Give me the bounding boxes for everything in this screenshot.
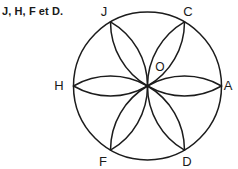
vertex-label-a: A bbox=[224, 78, 233, 93]
vertex-label-c: C bbox=[183, 4, 192, 19]
vertex-label-f: F bbox=[99, 154, 107, 169]
vertex-labels-group: A C J H F D bbox=[54, 4, 232, 169]
petal-arcs-group bbox=[74, 22, 222, 150]
vertex-label-d: D bbox=[182, 154, 191, 169]
figure-root: J, H, F et D. A C J H F D O bbox=[0, 0, 238, 169]
vertex-label-h: H bbox=[54, 78, 63, 93]
center-point-label-o: O bbox=[155, 60, 164, 74]
rosette-diagram: A C J H F D O bbox=[0, 0, 238, 169]
vertex-label-j: J bbox=[101, 4, 108, 19]
